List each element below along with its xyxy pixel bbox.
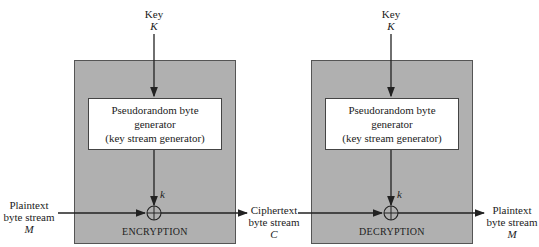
label-line-2: byte stream [0,211,58,223]
plaintext-input-label: Plaintext byte stream M [0,199,58,235]
label-line-1: Plaintext [484,204,539,216]
label-line-1: Ciphertext [246,204,302,216]
label-line-2: byte stream [484,216,539,228]
key-text: Key [371,8,411,20]
label-symbol: C [246,228,302,240]
encryption-keystream-symbol: k [160,188,165,200]
ciphertext-label: Ciphertext byte stream C [246,204,302,240]
plaintext-output-label: Plaintext byte stream M [484,204,539,240]
decryption-key-label: Key K [371,8,411,32]
decryption-keystream-symbol: k [397,188,402,200]
decryption-stage-name: DECRYPTION [311,226,473,238]
key-symbol: K [371,20,411,32]
key-text: Key [134,8,174,20]
encryption-key-label: Key K [134,8,174,32]
key-symbol: K [134,20,174,32]
label-symbol: M [484,228,539,240]
label-symbol: M [0,223,58,235]
encryption-stage-name: ENCRYPTION [74,226,236,238]
label-line-1: Plaintext [0,199,58,211]
label-line-2: byte stream [246,216,302,228]
